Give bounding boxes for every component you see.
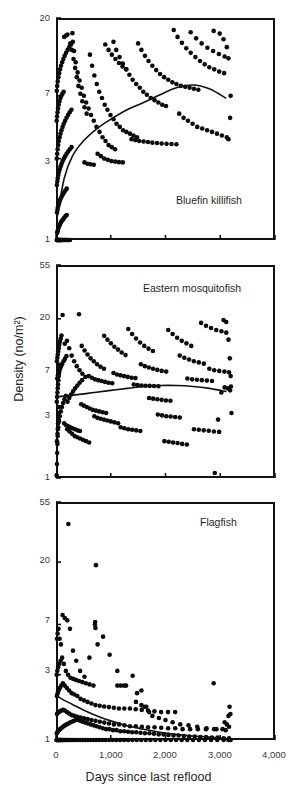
x-tick-label: 1,000	[89, 750, 133, 760]
y-tick-label: 7	[24, 365, 50, 375]
y-tick-label: 1	[24, 472, 50, 482]
y-tick-label: 20	[24, 555, 50, 565]
y-tick-label: 55	[24, 260, 50, 270]
y-tick-label: 7	[24, 615, 50, 625]
panel-annotation-eastern-mosquitofish: Eastern mosquitofish	[143, 282, 241, 294]
y-tick-label: 3	[24, 665, 50, 675]
panel-annotation-flagfish: Flagfish	[200, 516, 237, 528]
panel-annotation-bluefin-killifish: Bluefin killifish	[176, 194, 242, 206]
y-tick-label: 7	[24, 88, 50, 98]
y-tick-label: 20	[24, 13, 50, 23]
x-tick-label: 2,000	[143, 750, 187, 760]
fish-density-figure: 20 7 3 1 Bluefin killifish 55 20 7 3 1 E…	[0, 0, 297, 803]
panel-bluefin-killifish: 20 7 3 1 Bluefin killifish	[0, 0, 297, 255]
panel-flagfish: 55 20 7 3 1 Flagfish 0 1,000 2,000 3,000…	[0, 500, 297, 770]
x-tick-label: 0	[34, 750, 78, 760]
y-tick-label: 55	[24, 497, 50, 507]
y-tick-label: 1	[24, 234, 50, 244]
panel-eastern-mosquitofish: 55 20 7 3 1 Eastern mosquitofish	[0, 255, 297, 500]
y-tick-label: 3	[24, 410, 50, 420]
x-tick-label: 4,000	[252, 750, 296, 760]
plot-frame-0	[56, 18, 275, 240]
x-axis-title: Days since last reflood	[0, 770, 297, 784]
y-tick-label: 1	[24, 734, 50, 744]
plot-frame-2	[56, 502, 275, 740]
x-tick-label: 3,000	[198, 750, 242, 760]
y-axis-title: Density (no/m²)	[12, 299, 26, 419]
y-tick-label: 3	[24, 156, 50, 166]
plot-frame-1	[56, 265, 275, 478]
y-tick-label: 20	[24, 312, 50, 322]
